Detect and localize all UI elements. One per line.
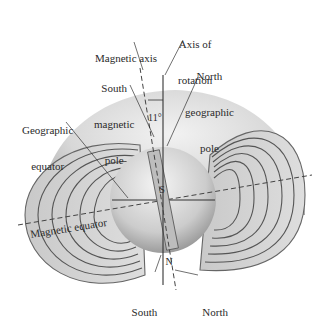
earth-magnetic-field-figure: Magnetic axis Axis of rotation North geo… — [0, 0, 332, 327]
label-magnetic-equator: Magnetic equator — [26, 192, 112, 263]
label-north-geographic-pole: North geographic pole — [185, 46, 234, 178]
label-south-magnetic-pole: South magnetic pole — [94, 58, 134, 190]
label-north-magnetic-pole: North magnetic pole — [195, 282, 235, 327]
label-geographic-equator: Geographic equator — [22, 100, 73, 196]
label-magnet-s: S — [157, 160, 167, 220]
label-angle: 11° — [148, 88, 162, 148]
label-south-geographic-pole: South geographic pole — [120, 282, 169, 327]
